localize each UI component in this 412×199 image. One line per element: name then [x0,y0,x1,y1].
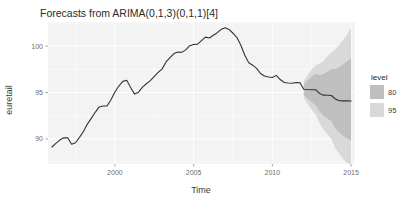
legend-swatch-95[interactable] [370,103,384,117]
x-tick-label: 2005 [186,169,202,176]
legend-items: 8095 [370,85,396,117]
chart-canvas: 2000200520102015 9095100 Forecasts from … [0,0,412,199]
y-axis: 9095100 [31,43,48,143]
legend-label-80: 80 [388,88,396,97]
y-tick-label: 100 [31,43,43,50]
legend-title: level [371,73,388,82]
chart-title: Forecasts from ARIMA(0,1,3)(0,1,1)[4] [40,7,218,19]
x-tick-label: 2010 [265,169,281,176]
y-tick-label: 95 [35,89,43,96]
legend-swatch-80[interactable] [370,85,384,99]
x-tick-label: 2000 [107,169,123,176]
x-axis: 2000200520102015 [107,164,359,176]
forecast-chart: 2000200520102015 9095100 Forecasts from … [0,0,412,199]
legend-label-95: 95 [388,106,396,115]
legend: level 8095 [370,73,396,117]
y-tick-label: 90 [35,135,43,142]
x-tick-label: 2015 [343,169,359,176]
x-axis-title: Time [191,185,211,195]
y-axis-title: euretail [4,85,14,115]
panel-group [48,22,355,164]
